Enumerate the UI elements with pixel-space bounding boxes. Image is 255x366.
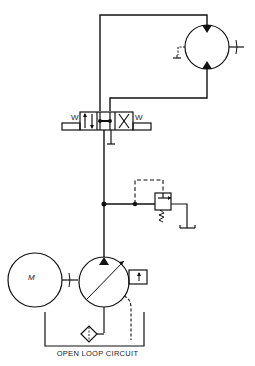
relief-valve — [155, 193, 195, 228]
solenoid-label-right: W — [135, 113, 143, 122]
reservoir — [45, 312, 144, 346]
electric-motor — [8, 253, 78, 307]
hydraulic-circuit — [0, 0, 255, 366]
diagram-caption: OPEN LOOP CIRCUIT — [0, 349, 195, 358]
hydraulic-motor — [173, 25, 244, 69]
motor-label: M — [28, 273, 35, 282]
pilot-line — [135, 180, 163, 204]
filter — [81, 326, 104, 342]
motor-line-b — [110, 69, 207, 111]
solenoid-label-left: W — [71, 113, 79, 122]
motor-line-a — [100, 15, 207, 111]
